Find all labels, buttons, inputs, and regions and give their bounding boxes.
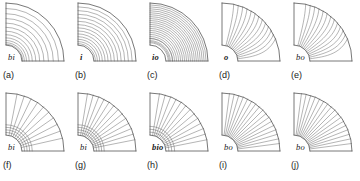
panel-f-variable-label: bi bbox=[8, 142, 15, 152]
panel-d-caption: (d) bbox=[219, 70, 230, 80]
panel-d-variable-label: o bbox=[224, 52, 228, 62]
figure-panel-grid: bi(a)i(b)io(c)o(d)bo(e) bi(f)bi(g)bio(h)… bbox=[0, 0, 360, 181]
panel-f: bi(f) bbox=[0, 90, 72, 180]
panel-i: bo(i) bbox=[216, 90, 288, 180]
panel-d: o(d) bbox=[216, 0, 288, 90]
panel-b: i(b) bbox=[72, 0, 144, 90]
panel-j: bo(j) bbox=[288, 90, 360, 180]
panel-a-caption: (a) bbox=[3, 70, 14, 80]
panel-j-caption: (j) bbox=[291, 160, 299, 170]
panel-i-caption: (i) bbox=[219, 160, 227, 170]
panel-e-variable-label: bo bbox=[296, 52, 305, 62]
panel-e: bo(e) bbox=[288, 0, 360, 90]
panel-c-caption: (c) bbox=[147, 70, 158, 80]
panel-j-variable-label: bo bbox=[296, 142, 305, 152]
panel-a: bi(a) bbox=[0, 0, 72, 90]
panel-row-bottom: bi(f)bi(g)bio(h)bo(i)bo(j) bbox=[0, 90, 360, 180]
panel-row-top: bi(a)i(b)io(c)o(d)bo(e) bbox=[0, 0, 360, 90]
panel-e-caption: (e) bbox=[291, 70, 302, 80]
panel-g-variable-label: bi bbox=[80, 142, 87, 152]
panel-i-variable-label: bo bbox=[224, 142, 233, 152]
panel-b-variable-label: i bbox=[80, 52, 83, 62]
panel-h: bio(h) bbox=[144, 90, 216, 180]
panel-c-variable-label: io bbox=[152, 52, 159, 62]
panel-a-variable-label: bi bbox=[8, 52, 15, 62]
panel-h-caption: (h) bbox=[147, 160, 158, 170]
panel-h-variable-label: bio bbox=[152, 142, 163, 152]
panel-b-caption: (b) bbox=[75, 70, 86, 80]
panel-g: bi(g) bbox=[72, 90, 144, 180]
panel-f-caption: (f) bbox=[3, 160, 12, 170]
panel-g-caption: (g) bbox=[75, 160, 86, 170]
panel-c: io(c) bbox=[144, 0, 216, 90]
